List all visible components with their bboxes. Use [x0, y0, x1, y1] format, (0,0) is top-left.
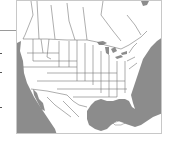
leader-line [0, 30, 17, 31]
text-fragment-mark [0, 53, 2, 54]
text-fragment-mark [0, 107, 2, 108]
north-america-map [17, 1, 162, 134]
map-frame [16, 0, 162, 134]
text-fragment-mark [0, 72, 2, 73]
